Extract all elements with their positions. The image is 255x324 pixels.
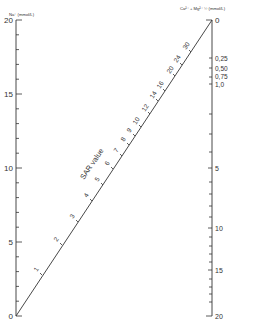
right-label-0-50: 0,50: [215, 65, 228, 72]
sar-line: [16, 20, 212, 316]
sar-nomogram: Na⁺ (mmol/L) 0 5 10 15 20 Ca²⁺ + Mg²⁺ ½ …: [0, 0, 255, 324]
sar-label-12: 12: [140, 102, 150, 112]
sar-label-30: 30: [181, 40, 191, 50]
sar-label-7: 7: [112, 146, 120, 153]
sar-label-2: 2: [52, 235, 60, 242]
right-label-0: 0: [215, 16, 220, 25]
right-label-0-25: 0,25: [215, 55, 228, 62]
right-label-5: 5: [215, 165, 219, 172]
right-label-1-0: 1,0: [215, 81, 224, 88]
sar-label-14: 14: [148, 89, 158, 99]
right-label-20: 20: [215, 313, 223, 320]
sar-label-1: 1: [32, 265, 40, 272]
left-label-10: 10: [4, 164, 13, 173]
right-axis-title: Ca²⁺ + Mg²⁺ ½ (mmol/L): [180, 6, 226, 11]
sar-label-10: 10: [131, 115, 141, 125]
sar-label-5: 5: [93, 175, 101, 182]
right-label-10: 10: [215, 225, 223, 232]
sar-label-3: 3: [68, 212, 76, 219]
sar-label-8: 8: [119, 135, 127, 142]
right-axis-ticks: [206, 20, 212, 316]
sar-label-16: 16: [155, 79, 165, 89]
sar-label-9: 9: [125, 126, 133, 133]
sar-ticks: [40, 50, 191, 275]
left-label-15: 15: [4, 90, 13, 99]
sar-label-24: 24: [172, 53, 182, 63]
sar-label-4: 4: [82, 191, 90, 198]
sar-label-20: 20: [165, 64, 175, 74]
left-label-0: 0: [9, 312, 14, 321]
left-label-20: 20: [4, 16, 13, 25]
right-label-15: 15: [215, 267, 223, 274]
sar-label-6: 6: [103, 159, 111, 166]
sar-line-title: SAR value: [78, 147, 105, 181]
left-axis-ticks: [16, 20, 22, 316]
right-label-0-75: 0,75: [215, 73, 228, 80]
left-label-5: 5: [9, 238, 14, 247]
